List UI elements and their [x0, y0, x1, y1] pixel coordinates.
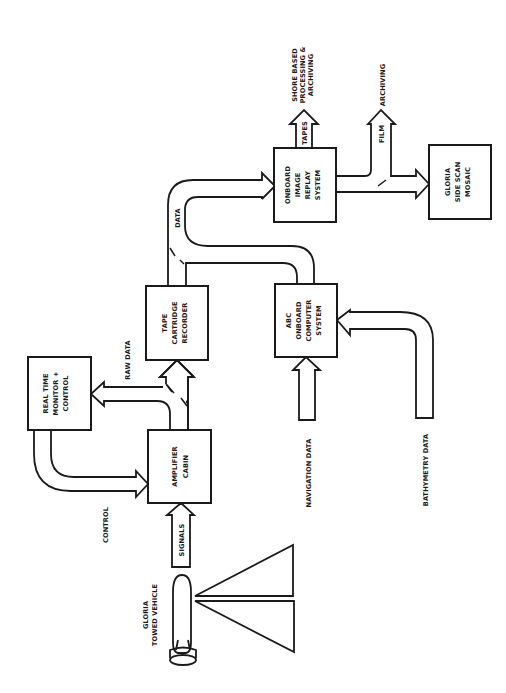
mosaic-line-3: MOSAIC — [464, 167, 472, 197]
abc-onboard-computer-system-box: ABC ONBOARD COMPUTER SYSTEM — [275, 284, 337, 357]
replay-line-4: SYSTEM — [314, 170, 322, 200]
archiving-label: ARCHIVING — [379, 64, 387, 106]
amplifier-line-2: CABIN — [182, 455, 190, 478]
monitor-line-3: CONTROL — [62, 375, 70, 412]
raw-data-label: RAW DATA — [124, 340, 132, 380]
navigation-data-arrow — [293, 357, 320, 420]
replay-line-1: ONBOARD — [284, 166, 292, 204]
control-label: CONTROL — [102, 506, 110, 543]
gloria-system-block-diagram: REAL TIME MONITOR + CONTROL AMPLIFIER CA… — [0, 0, 506, 693]
mosaic-line-1: GLORIA — [444, 167, 452, 196]
vehicle-label-line-2: TOWED VEHICLE — [151, 584, 159, 646]
monitor-line-1: REAL TIME — [42, 373, 50, 413]
mosaic-arrow — [336, 110, 429, 198]
navigation-data-label: NAVIGATION DATA — [305, 438, 313, 508]
sonar-swath-icon — [195, 545, 294, 652]
towed-vehicle-icon — [170, 575, 196, 665]
film-label: FILM — [378, 125, 386, 143]
bathymetry-data-label: BATHYMETRY DATA — [422, 433, 430, 506]
shore-label-line-2: PROCESSING & — [299, 47, 307, 104]
raw-data-arrow — [91, 360, 194, 430]
computer-line-1: ABC — [285, 313, 293, 328]
control-arrow — [34, 430, 148, 497]
amplifier-line-1: AMPLIFIER — [171, 446, 179, 487]
real-time-monitor-control-box: REAL TIME MONITOR + CONTROL — [28, 357, 91, 430]
tape-cartridge-recorder-box: TAPE CARTRIDGE RECORDER — [146, 286, 208, 360]
mosaic-line-2: SIDE SCAN — [454, 162, 462, 203]
data-label: DATA — [174, 207, 182, 227]
computer-line-3: COMPUTER — [305, 299, 313, 341]
shore-label-line-3: ARCHIVING — [307, 54, 315, 96]
amplifier-cabin-box: AMPLIFIER CABIN — [148, 430, 211, 503]
recorder-line-2: CARTRIDGE — [171, 301, 179, 344]
vehicle-label-line-1: GLORIA — [142, 600, 150, 629]
bathymetry-data-arrow — [337, 310, 433, 418]
shore-label-line-1: SHORE BASED — [291, 48, 299, 102]
recorder-line-3: RECORDER — [181, 303, 189, 344]
onboard-image-replay-system-box: ONBOARD IMAGE REPLAY SYSTEM — [274, 148, 336, 222]
tapes-label: TAPES — [301, 121, 309, 145]
monitor-line-2: MONITOR + — [52, 371, 60, 415]
replay-line-3: REPLAY — [304, 171, 312, 200]
gloria-side-scan-mosaic-box: GLORIA SIDE SCAN MOSAIC — [429, 145, 491, 219]
computer-line-2: ONBOARD — [295, 301, 303, 339]
recorder-line-1: TAPE — [161, 313, 169, 332]
replay-line-2: IMAGE — [294, 172, 302, 197]
computer-line-4: SYSTEM — [315, 305, 323, 335]
signals-label: SIGNALS — [178, 523, 186, 556]
